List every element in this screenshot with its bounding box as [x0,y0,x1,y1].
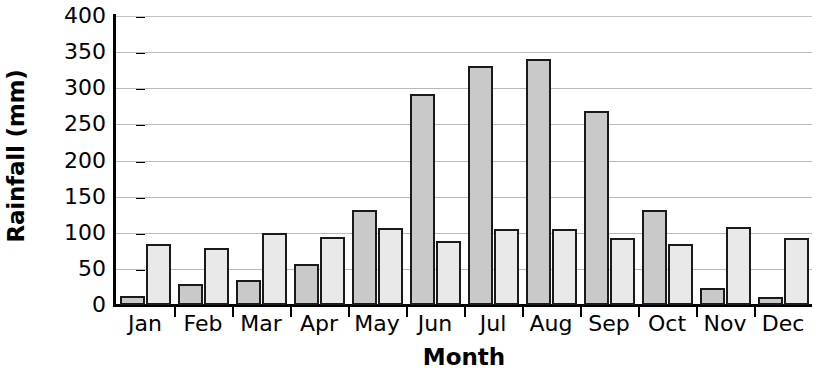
gridline [116,233,812,234]
bar-jul-series1 [468,66,493,305]
x-axis-label-jan: Jan [116,313,174,335]
x-axis-label-feb: Feb [174,313,232,335]
x-axis-label-nov: Nov [696,313,754,335]
bar-feb-series2 [204,248,229,305]
x-axis-tick-mark [754,306,756,317]
bar-sep-series1 [584,111,609,305]
x-axis-label-dec: Dec [754,313,812,335]
x-axis-label-apr: Apr [290,313,348,335]
bar-jun-series2 [436,241,461,305]
bar-jul-series2 [494,229,519,305]
x-axis-tick-mark [406,306,408,317]
gridline [116,16,812,17]
y-axis-tick-label: 200 [42,150,106,172]
x-axis-label-jun: Jun [406,313,464,335]
rainfall-bar-chart: Rainfall (mm) 050100150200250300350400 M… [0,0,820,373]
y-axis-tick-label: 50 [42,258,106,280]
y-axis-title: Rainfall (mm) [0,0,32,312]
bar-dec-series2 [784,238,809,305]
bar-may-series2 [378,228,403,305]
x-axis-tick-mark [638,306,640,317]
bar-nov-series1 [700,288,725,305]
x-axis-label-aug: Aug [522,313,580,335]
y-axis-tick-label: 250 [42,113,106,135]
x-axis-tick-mark [232,306,234,317]
y-axis-tick-label: 350 [42,41,106,63]
bar-aug-series2 [552,229,577,305]
y-axis-tick-label: 400 [42,5,106,27]
gridline [116,161,812,162]
bar-may-series1 [352,210,377,305]
bar-mar-series1 [236,280,261,305]
x-axis-label-sep: Sep [580,313,638,335]
bar-jun-series1 [410,94,435,305]
y-axis-title-text: Rainfall (mm) [3,69,29,242]
y-axis-tick-label: 100 [42,222,106,244]
x-axis-label-mar: Mar [232,313,290,335]
bar-feb-series1 [178,284,203,305]
x-axis-label-jul: Jul [464,313,522,335]
gridline [116,197,812,198]
x-axis-tick-mark [522,306,524,317]
bar-apr-series2 [320,237,345,305]
bar-oct-series1 [642,210,667,305]
gridline [116,124,812,125]
gridline [116,88,812,89]
x-axis-tick-mark [348,306,350,317]
bar-apr-series1 [294,264,319,305]
gridline [116,52,812,53]
x-axis-tick-mark [696,306,698,317]
y-axis-tick-group: 050100150200250300350400 [30,0,106,320]
x-axis-tick-mark [580,306,582,317]
bar-aug-series1 [526,59,551,305]
x-axis-tick-mark [174,306,176,317]
bar-mar-series2 [262,233,287,305]
x-axis-tick-mark [290,306,292,317]
bar-sep-series2 [610,238,635,305]
x-axis-label-may: May [348,313,406,335]
bar-nov-series2 [726,227,751,305]
y-axis-tick-label: 150 [42,186,106,208]
bar-oct-series2 [668,244,693,305]
plot-area [116,16,812,305]
bar-jan-series1 [120,296,145,305]
y-axis-tick-label: 0 [42,294,106,316]
y-axis-tick-label: 300 [42,77,106,99]
bar-jan-series2 [146,244,171,305]
x-axis-tick-mark [464,306,466,317]
x-axis-title: Month [116,344,812,370]
bar-dec-series1 [758,297,783,305]
x-axis-label-oct: Oct [638,313,696,335]
